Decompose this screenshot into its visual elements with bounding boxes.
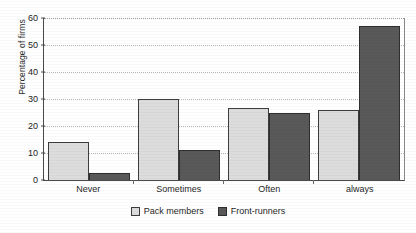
x-axis-labels: NeverSometimesOftenalways [43, 184, 405, 194]
legend-item-front-runners: Front-runners [218, 206, 286, 216]
legend-label: Pack members [144, 206, 204, 216]
bar-sometimes-front-runners [179, 150, 220, 180]
y-tick-label-60: 60 [28, 13, 44, 23]
bar-always-front-runners [359, 26, 400, 180]
legend-swatch-light [131, 207, 140, 216]
legend-item-pack-members: Pack members [131, 206, 204, 216]
bar-often-front-runners [269, 113, 310, 181]
y-tick-label-20: 20 [28, 121, 44, 131]
x-axis-label-never: Never [43, 184, 134, 194]
chart-legend: Pack membersFront-runners [0, 206, 416, 216]
plot-area: 6050403020100 [43, 18, 405, 181]
y-tick-label-30: 30 [28, 94, 44, 104]
bar-group-always [314, 18, 404, 180]
bar-sometimes-pack-members [138, 99, 179, 180]
y-tick-label-40: 40 [28, 67, 44, 77]
bar-never-front-runners [89, 173, 130, 180]
bar-group-sometimes [134, 18, 224, 180]
x-axis-label-often: Often [224, 184, 315, 194]
legend-label: Front-runners [231, 206, 286, 216]
bar-often-pack-members [228, 108, 269, 180]
bar-always-pack-members [318, 110, 359, 180]
legend-swatch-dark [218, 207, 227, 216]
y-tick-label-50: 50 [28, 40, 44, 50]
bar-chart: Percentage of firms 6050403020100 NeverS… [0, 0, 416, 233]
y-tick-label-10: 10 [28, 148, 44, 158]
x-axis-label-sometimes: Sometimes [134, 184, 225, 194]
x-axis-label-always: always [315, 184, 406, 194]
bar-group-often [224, 18, 314, 180]
bar-group-never [44, 18, 134, 180]
bar-never-pack-members [48, 142, 89, 180]
y-axis-title: Percentage of firms [17, 0, 27, 127]
bar-groups [44, 18, 404, 180]
